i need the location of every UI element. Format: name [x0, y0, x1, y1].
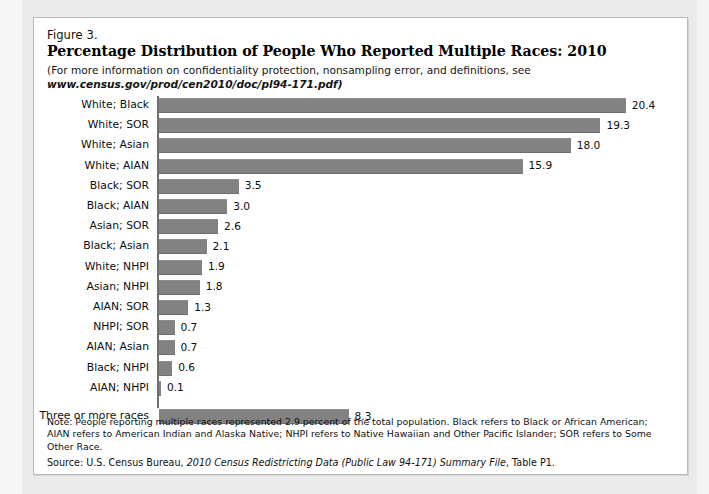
bar-row: White; SOR19.3: [34, 116, 687, 136]
bar-rect: [159, 300, 189, 315]
bar-row: White; Black20.4: [34, 96, 687, 116]
bar-value-label: 3.0: [233, 200, 250, 212]
bar-rect: [159, 159, 523, 174]
bar-rect: [159, 280, 200, 295]
bar-row: White; NHPI1.9: [34, 258, 687, 278]
bar-value-label: 1.9: [208, 260, 225, 272]
figure-note: Note: People reporting multiple races re…: [47, 416, 667, 453]
bar-rect: [159, 340, 175, 355]
bar-row: NHPI; SOR0.7: [34, 318, 687, 338]
bar-rect: [159, 260, 203, 275]
bar-rect: [159, 179, 239, 194]
bar-value-label: 0.7: [181, 341, 198, 353]
bar-row: White; AIAN15.9: [34, 157, 687, 177]
bar-category-label: White; Black: [0, 98, 149, 111]
figure-source: Source: U.S. Census Bureau, 2010 Census …: [47, 457, 667, 468]
bar-category-label: White; Asian: [0, 138, 149, 151]
figure-number: Figure 3.: [47, 28, 98, 42]
figure-subtitle-url: www.census.gov/prod/cen2010/doc/pl94-171…: [47, 78, 343, 90]
bar-value-label: 2.6: [224, 220, 241, 232]
bar-value-label: 15.9: [529, 159, 553, 171]
source-title: 2010 Census Redistricting Data (Public L…: [187, 457, 506, 468]
bar-row: Black; AIAN3.0: [34, 197, 687, 217]
source-suffix: , Table P1.: [506, 457, 555, 468]
bar-rect: [159, 361, 173, 376]
bar-row: AIAN; SOR1.3: [34, 298, 687, 318]
bar-category-label: White; SOR: [0, 118, 149, 131]
bar-rect: [159, 320, 175, 335]
bar-row: AIAN; NHPI0.1: [34, 379, 687, 399]
bar-rect: [159, 138, 571, 153]
bar-chart: White; Black20.4White; SOR19.3White; Asi…: [34, 96, 687, 408]
bar-category-label: Black; Asian: [0, 239, 149, 252]
bar-value-label: 1.8: [206, 280, 223, 292]
bar-row: Black; NHPI0.6: [34, 359, 687, 379]
bar-category-label: Black; NHPI: [0, 361, 149, 374]
bar-row: Asian; NHPI1.8: [34, 278, 687, 298]
bar-value-label: 18.0: [577, 139, 601, 151]
bar-category-label: Black; AIAN: [0, 199, 149, 212]
bar-value-label: 2.1: [213, 240, 230, 252]
bar-rect: [159, 381, 162, 396]
bar-row: White; Asian18.0: [34, 136, 687, 156]
bar-rect: [159, 219, 219, 234]
bar-row: AIAN; Asian0.7: [34, 338, 687, 358]
bar-category-label: White; AIAN: [0, 159, 149, 172]
bar-value-label: 0.6: [178, 361, 195, 373]
bar-row: Black; Asian2.1: [34, 237, 687, 257]
bar-value-label: 1.3: [194, 301, 211, 313]
bar-value-label: 3.5: [245, 179, 262, 191]
bar-category-label: Asian; NHPI: [0, 280, 149, 293]
bar-value-label: 19.3: [606, 119, 630, 131]
figure-subtitle-line1: (For more information on confidentiality…: [47, 64, 531, 76]
bar-rect: [159, 199, 228, 214]
bar-value-label: 0.1: [167, 381, 184, 393]
bar-category-label: White; NHPI: [0, 260, 149, 273]
figure-title: Percentage Distribution of People Who Re…: [47, 43, 607, 59]
bar-category-label: Black; SOR: [0, 179, 149, 192]
bar-rect: [159, 239, 207, 254]
bar-value-label: 20.4: [632, 99, 656, 111]
source-prefix: Source: U.S. Census Bureau,: [47, 457, 187, 468]
bar-category-label: AIAN; SOR: [0, 300, 149, 313]
bar-category-label: NHPI; SOR: [0, 320, 149, 333]
bar-rect: [159, 98, 626, 113]
bar-category-label: Asian; SOR: [0, 219, 149, 232]
figure-subtitle: (For more information on confidentiality…: [47, 63, 667, 91]
figure-card: Figure 3. Percentage Distribution of Peo…: [33, 17, 688, 475]
bar-value-label: 0.7: [181, 321, 198, 333]
bar-row: Black; SOR3.5: [34, 177, 687, 197]
bar-row: Asian; SOR2.6: [34, 217, 687, 237]
bar-category-label: AIAN; Asian: [0, 340, 149, 353]
bar-category-label: AIAN; NHPI: [0, 381, 149, 394]
bar-rect: [159, 118, 601, 133]
